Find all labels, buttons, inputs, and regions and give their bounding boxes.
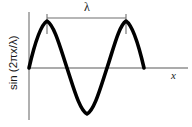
wavelength-label: λ <box>80 1 94 13</box>
plot-canvas <box>0 0 192 127</box>
x-axis-label: x <box>171 70 176 81</box>
sine-wave-figure: λ sin (2πx/λ) x <box>0 0 192 127</box>
y-axis-label: sin (2πx/λ) <box>8 21 20 105</box>
